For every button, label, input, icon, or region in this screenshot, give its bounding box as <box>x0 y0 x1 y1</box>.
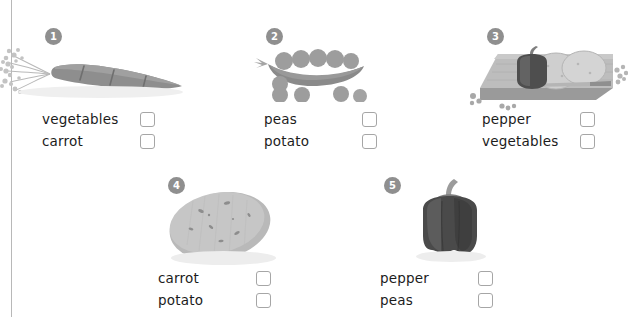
option-checkbox[interactable] <box>478 271 493 286</box>
option-row[interactable]: carrot <box>42 130 155 152</box>
option-label: pepper <box>380 270 478 286</box>
option-label: potato <box>158 292 256 308</box>
options-group-1: vegetables carrot <box>42 108 155 152</box>
pepper-shadow <box>416 251 486 262</box>
option-row[interactable]: carrot <box>158 267 271 289</box>
cutting-board-svg <box>468 34 628 112</box>
carrot-illustration <box>0 40 190 102</box>
item-number-badge-5: 5 <box>384 177 401 194</box>
cutting-board-illustration <box>468 34 618 104</box>
option-row[interactable]: potato <box>264 130 377 152</box>
option-checkbox[interactable] <box>256 271 271 286</box>
option-checkbox[interactable] <box>140 112 155 127</box>
options-group-5: pepper peas <box>380 267 493 311</box>
options-group-4: carrot potato <box>158 267 271 311</box>
options-group-2: peas potato <box>264 108 377 152</box>
option-row[interactable]: vegetables <box>482 130 595 152</box>
option-checkbox[interactable] <box>256 293 271 308</box>
options-group-3: pepper vegetables <box>482 108 595 152</box>
option-checkbox[interactable] <box>362 112 377 127</box>
option-checkbox[interactable] <box>140 134 155 149</box>
bell-pepper-illustration <box>410 175 490 267</box>
option-checkbox[interactable] <box>580 112 595 127</box>
potato-illustration <box>165 189 280 271</box>
option-row[interactable]: vegetables <box>42 108 155 130</box>
option-label: vegetables <box>42 111 140 127</box>
option-label: peas <box>380 292 478 308</box>
option-label: carrot <box>158 270 256 286</box>
item-number-badge-2: 2 <box>266 28 283 45</box>
option-checkbox[interactable] <box>580 134 595 149</box>
option-row[interactable]: pepper <box>380 267 493 289</box>
pea-pod-svg <box>248 44 378 102</box>
option-checkbox[interactable] <box>478 293 493 308</box>
potato-shadow <box>171 251 276 265</box>
option-row[interactable]: peas <box>264 108 377 130</box>
option-checkbox[interactable] <box>362 134 377 149</box>
option-row[interactable]: pepper <box>482 108 595 130</box>
option-label: pepper <box>482 111 580 127</box>
option-label: potato <box>264 133 362 149</box>
option-label: peas <box>264 111 362 127</box>
option-label: vegetables <box>482 133 580 149</box>
option-row[interactable]: potato <box>158 289 271 311</box>
option-row[interactable]: peas <box>380 289 493 311</box>
pea-pod-illustration <box>248 44 378 102</box>
carrot-shadow <box>18 86 183 98</box>
option-label: carrot <box>42 133 140 149</box>
worksheet-page: 1 <box>0 0 629 317</box>
